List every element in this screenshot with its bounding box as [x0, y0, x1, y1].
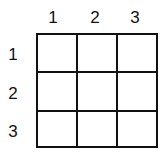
column-label-2: 2 [85, 9, 105, 26]
grid-divider-horizontal-2 [38, 110, 156, 112]
row-label-2: 2 [3, 85, 23, 102]
grid-divider-vertical-2 [116, 35, 118, 146]
grid-divider-horizontal-1 [38, 71, 156, 73]
column-label-1: 1 [43, 9, 63, 26]
row-label-3: 3 [3, 123, 23, 140]
column-label-3: 3 [125, 9, 145, 26]
grid [36, 33, 158, 148]
grid-divider-vertical-1 [76, 35, 78, 146]
row-label-1: 1 [3, 46, 23, 63]
